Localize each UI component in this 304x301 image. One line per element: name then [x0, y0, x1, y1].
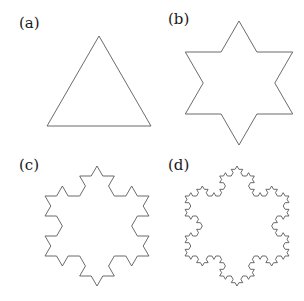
koch-iteration-0-triangle [47, 36, 151, 126]
figure-canvas [0, 0, 304, 301]
koch-outline-path [47, 36, 151, 126]
koch-outline-path [185, 21, 292, 145]
koch-iteration-3-snowflake [185, 166, 289, 286]
koch-iteration-1-star [185, 21, 292, 145]
koch-iteration-2-snowflake [45, 166, 149, 286]
panel-label-b: (b) [168, 12, 189, 27]
panel-label-a: (a) [19, 16, 40, 31]
koch-outline-path [185, 166, 289, 286]
panel-label-c: (c) [19, 158, 39, 173]
panel-label-d: (d) [168, 158, 189, 173]
koch-outline-path [45, 166, 149, 286]
